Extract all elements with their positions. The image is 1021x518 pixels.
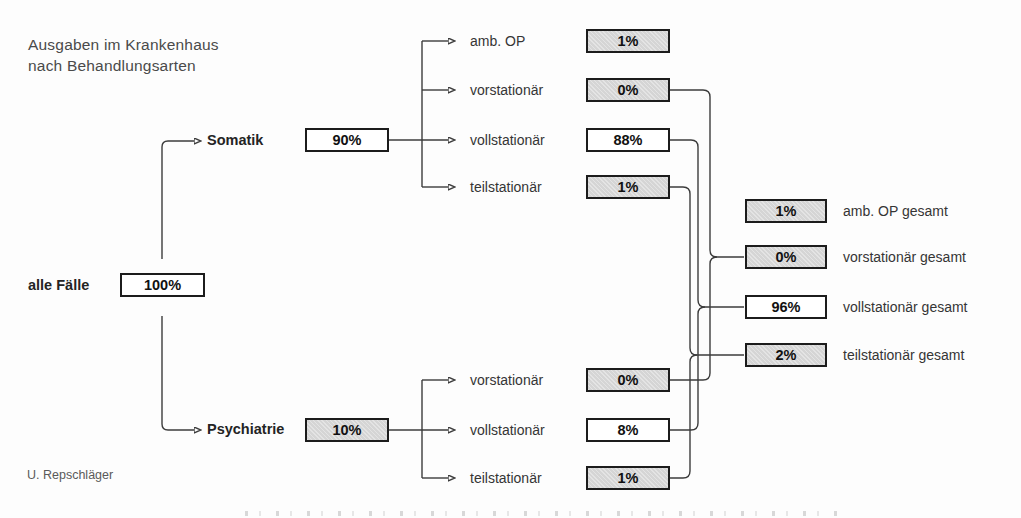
diagram-title-line2: nach Behandlungsarten	[28, 55, 219, 76]
trunk-to-somatik-line	[162, 141, 194, 259]
vorstationaer-total-brace-bottom	[670, 257, 717, 380]
somatik-child-amb-op-value-box: 1%	[586, 29, 670, 53]
somatik-child-vollstationaer-label: vollstationär	[470, 132, 545, 148]
root-label: alle Fälle	[28, 277, 89, 293]
psychiatrie-child-vorstationaer-label: vorstationär	[470, 372, 543, 388]
teilstationaer-total-brace-bottom	[670, 355, 697, 478]
branch-psychiatrie-value-box: 10%	[305, 418, 389, 442]
psychiatrie-child-teilstationaer-label: teilstationär	[470, 470, 542, 486]
psychiatrie-child-vollstationaer-value-box: 8%	[586, 418, 670, 442]
branch-psychiatrie-label: Psychiatrie	[207, 421, 284, 437]
total-amb-op-label: amb. OP gesamt	[843, 203, 948, 219]
psychiatrie-child-vorstationaer-value-box: 0%	[586, 368, 670, 392]
branch-somatik-value-box: 90%	[305, 128, 389, 152]
total-teilstationaer-value-box: 2%	[745, 343, 827, 367]
total-vorstationaer-label: vorstationär gesamt	[843, 249, 966, 265]
somatik-child-vorstationaer-value-box: 0%	[586, 78, 670, 102]
psychiatrie-child-vollstationaer-label: vollstationär	[470, 422, 545, 438]
teilstationaer-total-brace-top	[670, 187, 744, 355]
author-credit: U. Repschläger	[27, 468, 113, 482]
somatik-child-vorstationaer-label: vorstationär	[470, 82, 543, 98]
treatment-expense-tree-diagram: Ausgaben im Krankenhaus nach Behandlungs…	[0, 0, 1021, 518]
somatik-child-teilstationaer-value-box: 1%	[586, 175, 670, 199]
somatik-child-vollstationaer-value-box: 88%	[586, 128, 670, 152]
somatik-child-amb-op-label: amb. OP	[470, 33, 525, 49]
total-amb-op-value-box: 1%	[745, 199, 827, 223]
cropped-caption-top-edge	[245, 511, 845, 516]
diagram-title-line1: Ausgaben im Krankenhaus	[28, 34, 219, 55]
psychiatrie-child-teilstationaer-value-box: 1%	[586, 466, 670, 490]
total-teilstationaer-label: teilstationär gesamt	[843, 347, 964, 363]
somatik-child-teilstationaer-label: teilstationär	[470, 179, 542, 195]
vorstationaer-total-brace-top	[670, 90, 744, 257]
vollstationaer-total-brace-top	[670, 140, 744, 307]
diagram-title: Ausgaben im Krankenhaus nach Behandlungs…	[28, 34, 219, 76]
total-vorstationaer-value-box: 0%	[745, 245, 827, 269]
branch-somatik-label: Somatik	[207, 132, 263, 148]
total-vollstationaer-label: vollstationär gesamt	[843, 299, 968, 315]
total-vollstationaer-value-box: 96%	[745, 295, 827, 319]
root-value-box: 100%	[120, 273, 205, 297]
trunk-to-psychiatrie-line	[162, 316, 194, 430]
vollstationaer-total-brace-bottom	[670, 307, 705, 430]
